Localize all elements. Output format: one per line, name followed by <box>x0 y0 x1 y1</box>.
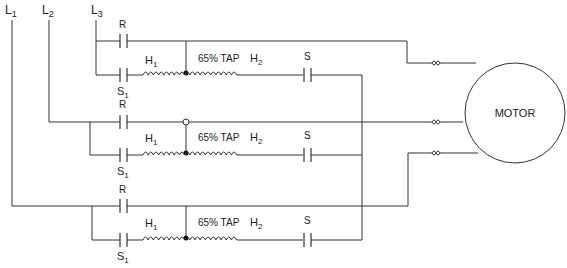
svg-text:R: R <box>119 184 126 195</box>
svg-text:S1: S1 <box>117 165 129 180</box>
svg-text:S1: S1 <box>117 250 129 265</box>
phase-2: R S1 H1 65% TAP H2 S <box>90 99 432 180</box>
autotransformer-coil <box>143 237 237 240</box>
svg-text:S: S <box>304 215 311 226</box>
coil-h2-label: H2 <box>250 131 263 146</box>
autotransformer-coil <box>143 152 237 155</box>
autotransformer-starter-diagram: L1 L2 L3 R S1 H1 65% TAP H2 <box>0 0 567 268</box>
coil-h2-label: H2 <box>250 216 263 231</box>
start-contact-s1: S1 <box>117 68 129 100</box>
svg-text:R: R <box>119 99 126 110</box>
supply-line-l1 <box>12 20 120 206</box>
coil-h1-label: H1 <box>145 217 158 232</box>
start-contact-s1: S1 <box>117 148 129 180</box>
svg-text:L3: L3 <box>91 3 103 19</box>
overload-2 <box>432 120 463 124</box>
coil-h1-label: H1 <box>145 54 158 69</box>
coil-h1-label: H1 <box>145 132 158 147</box>
run-contact-r: R <box>119 184 127 213</box>
supply-line-l3 <box>96 20 120 41</box>
svg-text:L2: L2 <box>42 3 54 19</box>
autotransformer-coil <box>143 72 237 75</box>
line-label-l3: L3 <box>91 3 103 19</box>
svg-text:MOTOR: MOTOR <box>495 107 536 119</box>
svg-text:S1: S1 <box>117 85 129 100</box>
start-contact-s1: S1 <box>117 233 129 265</box>
tap-label: 65% TAP <box>198 132 240 143</box>
coil-h2-label: H2 <box>250 52 263 67</box>
start-contact-s: S <box>304 51 311 82</box>
start-contact-s: S <box>304 215 311 247</box>
svg-text:S: S <box>304 130 311 141</box>
motor: MOTOR <box>465 63 565 163</box>
line-label-l1: L1 <box>5 3 17 19</box>
phase-1: R S1 H1 65% TAP H2 S <box>96 19 432 100</box>
phase-3: R S1 H1 65% TAP H2 S <box>92 153 432 265</box>
svg-text:L1: L1 <box>5 3 17 19</box>
start-contact-s: S <box>304 130 311 162</box>
run-contact-r: R <box>119 99 127 129</box>
supply-line-l2 <box>49 20 120 122</box>
tap-label: 65% TAP <box>198 217 240 228</box>
svg-text:R: R <box>119 19 126 30</box>
overload-1 <box>432 61 476 65</box>
open-junction <box>183 119 189 125</box>
svg-text:S: S <box>304 51 311 62</box>
tap-label: 65% TAP <box>198 53 240 64</box>
run-contact-r: R <box>119 19 127 48</box>
overload-3 <box>432 151 478 155</box>
line-label-l2: L2 <box>42 3 54 19</box>
